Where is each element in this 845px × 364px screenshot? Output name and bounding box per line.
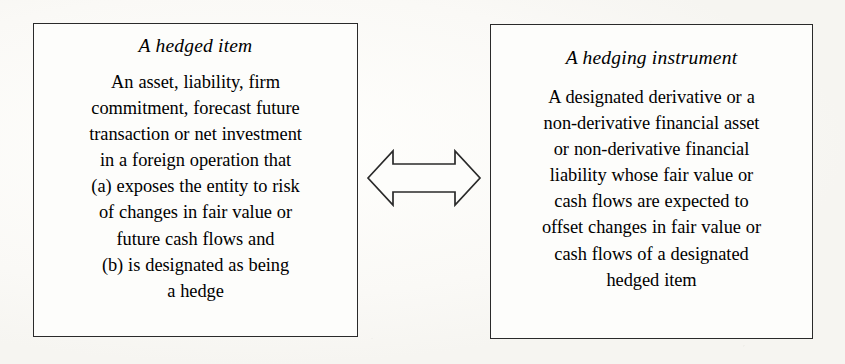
hedged-item-body: An asset, liability, firm commitment, fo…: [40, 69, 351, 304]
hedging-instrument-line: offset changes in fair value or: [499, 214, 804, 240]
hedging-instrument-line: cash flows of a designated: [499, 241, 804, 267]
hedged-item-line: in a foreign operation that: [40, 147, 351, 173]
hedged-item-line: commitment, forecast future: [40, 95, 351, 121]
figure-canvas: A hedged item An asset, liability, firm …: [0, 0, 845, 364]
double-headed-arrow-icon: [366, 145, 482, 211]
hedging-instrument-body: A designated derivative or a non-derivat…: [499, 84, 804, 293]
hedging-instrument-line: liability whose fair value or: [499, 162, 804, 188]
hedged-item-line: (a) exposes the entity to risk: [40, 173, 351, 199]
hedged-item-line: (b) is designated as being: [40, 252, 351, 278]
concept-box-hedged-item: A hedged item An asset, liability, firm …: [33, 23, 358, 337]
hedged-item-line: a hedge: [40, 278, 351, 304]
hedging-instrument-line: cash flows are expected to: [499, 188, 804, 214]
hedged-item-line: transaction or net investment: [40, 121, 351, 147]
hedging-instrument-line: hedged item: [499, 267, 804, 293]
concept-box-hedging-instrument: A hedging instrument A designated deriva…: [490, 24, 813, 339]
hedging-instrument-line: A designated derivative or a: [499, 84, 804, 110]
hedging-instrument-heading: A hedging instrument: [499, 45, 804, 71]
hedged-item-line: future cash flows and: [40, 226, 351, 252]
hedged-item-heading: A hedged item: [40, 33, 351, 59]
hedged-item-line: of changes in fair value or: [40, 199, 351, 225]
hedging-instrument-line: or non-derivative financial: [499, 136, 804, 162]
hedging-instrument-line: non-derivative financial asset: [499, 110, 804, 136]
hedged-item-line: An asset, liability, firm: [40, 69, 351, 95]
